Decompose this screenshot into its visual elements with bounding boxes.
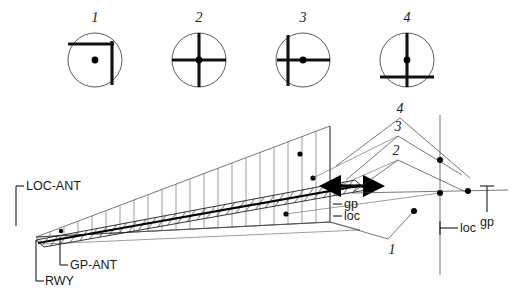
gp-ant-label: GP-ANT [70,258,118,272]
indicator-4-center-dot [404,57,411,64]
loc-surface-label: loc [344,209,360,223]
approach-path [38,186,358,243]
chevron-position-4: 4 [336,101,470,178]
indicator-4-group: 4 [380,10,434,87]
rwy-label: RWY [45,274,75,288]
position-3-label: 3 [394,119,402,134]
position-4-label: 4 [397,101,404,116]
indicator-3-label: 3 [299,10,307,25]
ils-diagram-canvas: 1 2 3 4 [0,0,520,295]
rwy-annotation: RWY [36,240,75,288]
chevron-position-3: 3 [346,119,462,180]
loc-dimension-label: loc [460,221,476,235]
indicator-2-center-dot [196,57,203,64]
chevron-4-path [336,118,470,178]
surface-dot-origin [59,229,63,233]
reference-center-dot [437,190,443,196]
reference-cross [352,115,508,275]
indicator-1-label: 1 [92,10,99,25]
position-2-label: 2 [393,143,400,158]
indicator-1-group: 1 [68,10,122,87]
position-1-dot [411,208,417,214]
ideal-approach-path-line [38,186,358,243]
position-1-leader [330,211,414,239]
position-1-label: 1 [389,242,396,257]
loc-surface-annotation: loc [333,209,360,223]
loc-ant-annotation: LOC-ANT [16,179,81,226]
ils-diagram: 1 2 3 4 [0,0,520,295]
surface-dot-a [297,151,302,156]
chevron-2-path [352,160,468,193]
gp-dimension-label: gp [480,215,494,229]
indicator-3-group: 3 [276,10,330,87]
indicator-2-label: 2 [196,10,203,25]
chevron-3-path [346,136,462,180]
reference-horizontal-axis [352,190,508,193]
loc-ant-label: LOC-ANT [26,179,81,193]
position-2-marker [465,188,471,194]
gp-dimension-annotation: gp [480,186,494,229]
position-3-dot [437,157,443,163]
loc-dimension-annotation: loc [440,221,476,235]
indicator-4-label: 4 [404,10,411,25]
position-2-dot [465,188,471,194]
indicator-3-center-dot [300,57,307,64]
indicator-1-center-dot [92,57,99,64]
indicator-2-group: 2 [172,10,226,87]
